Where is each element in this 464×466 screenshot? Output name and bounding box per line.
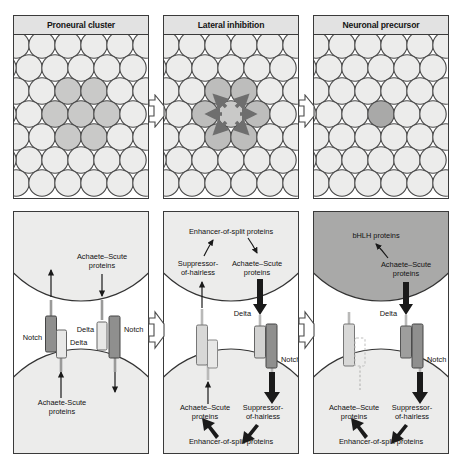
transition-arrow-2-to-3-bottom (298, 310, 315, 354)
achaete-scute-label-upper: Achaete–Scute (77, 252, 127, 261)
panel-title-proneural-cluster: Proneural cluster (14, 16, 148, 35)
delta-ligand-right (97, 322, 107, 350)
delta-ligand-right (255, 326, 266, 358)
delta-ligand-right (401, 326, 412, 358)
achaete-scute-label-lower: Achaete–Scute (329, 403, 379, 412)
cell-sheet-proneural-cluster (14, 35, 148, 198)
svg-text:proteins: proteins (244, 268, 271, 277)
achaete-scute-label-lower: Achaete–Scute (180, 403, 230, 412)
panel-mechanism-equivalent-cells: Achaete–Scute proteins Achaete-Scute pro… (13, 211, 149, 454)
notch-receptor-right (109, 316, 120, 358)
cell-sheet-lateral-inhibition (164, 35, 298, 198)
suppressor-of-hairless-label-lower: Suppressor- (243, 403, 284, 412)
panel-title-lateral-inhibition: Lateral inhibition (164, 16, 298, 35)
delta-label: Delta (380, 309, 398, 318)
panel-neuronal-precursor: Neuronal precursor (313, 15, 449, 199)
notch-label: Notch (427, 355, 446, 364)
svg-text:of-hairless: of-hairless (181, 268, 215, 277)
notch-label: Notch (281, 355, 298, 364)
cell-upper (314, 212, 448, 301)
notch-receptor-right (266, 324, 277, 368)
enhancer-of-split-label-lower: Enhancer-of-split proteins (189, 437, 274, 446)
achaete-scute-label-lower: Achaete-Scute (38, 398, 86, 407)
panel-title-neuronal-precursor: Neuronal precursor (314, 16, 448, 35)
delta-label-right: Delta (77, 325, 95, 334)
svg-text:of-hairless: of-hairless (395, 412, 429, 421)
cell-upper (164, 212, 298, 301)
achaete-scute-label-upper: Achaete–Scute (232, 259, 282, 268)
enhancer-of-split-label-upper: Enhancer-of-split proteins (189, 227, 274, 236)
delta-ligand-left (57, 330, 67, 358)
transition-arrow-1-to-2-top (148, 94, 165, 132)
svg-text:proteins: proteins (393, 269, 420, 278)
panel-lateral-inhibition: Lateral inhibition (163, 15, 299, 199)
delta-ligand-left (208, 340, 218, 368)
notch-label-left: Notch (23, 333, 42, 342)
panel-mechanism-lateral-inhibition: Enhancer-of-split proteins Suppressor- o… (163, 211, 299, 454)
suppressor-of-hairless-label-upper: Suppressor- (178, 259, 219, 268)
svg-text:proteins: proteins (89, 261, 116, 270)
delta-label-left: Delta (70, 338, 88, 347)
suppressor-of-hairless-label-lower: Suppressor- (392, 403, 433, 412)
cell-sheet-neuronal-precursor (314, 35, 448, 198)
panel-proneural-cluster: Proneural cluster (13, 15, 149, 199)
notch-receptor-left (46, 316, 57, 352)
notch-receptor-left (197, 325, 208, 365)
svg-text:proteins: proteins (49, 407, 76, 416)
achaete-scute-label-upper: Achaete–Scute (381, 260, 431, 269)
figure-root: Proneural cluster (0, 0, 464, 466)
enhancer-of-split-label-lower: Enhancer-of-split proteins (339, 437, 424, 446)
notch-receptor-left (344, 324, 355, 366)
transition-arrow-1-to-2-bottom (148, 310, 165, 354)
bhlh-proteins-label: bHLH proteins (352, 231, 400, 240)
svg-text:of-hairless: of-hairless (246, 412, 280, 421)
notch-receptor-right (412, 324, 423, 368)
notch-label-right: Notch (124, 325, 143, 334)
delta-label: Delta (234, 309, 252, 318)
panel-mechanism-neuronal-precursor: bHLH proteins Achaete–Scute proteins Del… (313, 211, 449, 454)
transition-arrow-2-to-3-top (298, 94, 315, 132)
